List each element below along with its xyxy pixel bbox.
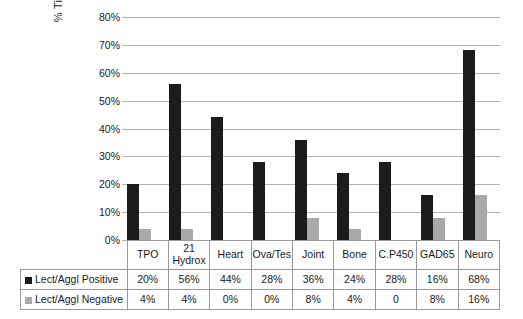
- bar-positive: [295, 140, 307, 240]
- table-value-cell: 4%: [127, 290, 168, 310]
- table-value-cell: 16%: [417, 270, 458, 290]
- bar-chart: % Tissue Antibodies 0%10%20%30%40%50%60%…: [0, 0, 523, 319]
- table-category-header: Bone: [334, 241, 375, 270]
- bar-group: [458, 17, 500, 240]
- bar-group: [290, 17, 332, 240]
- plot-area: [122, 17, 500, 240]
- table-corner-cell: [21, 241, 128, 270]
- table-header-row: TPO21HydroxHeartOva/TesJointBoneC.P450GA…: [21, 241, 500, 270]
- table-category-header: Joint: [293, 241, 334, 270]
- legend-item-positive: Lect/Aggl Positive: [21, 270, 128, 290]
- table-value-cell: 8%: [293, 290, 334, 310]
- y-tick-label: 10%: [90, 206, 120, 218]
- table-category-header: Heart: [210, 241, 251, 270]
- y-tick-label: 50%: [90, 95, 120, 107]
- table-row: Lect/Aggl Negative4%4%0%0%8%4%08%16%: [21, 290, 500, 310]
- table-row: Lect/Aggl Positive20%56%44%28%36%24%28%1…: [21, 270, 500, 290]
- table-value-cell: 0%: [251, 290, 292, 310]
- table-value-cell: 0%: [210, 290, 251, 310]
- y-tick-label: 30%: [90, 150, 120, 162]
- bar-group: [416, 17, 458, 240]
- bar-group: [122, 17, 164, 240]
- y-axis-title: % Tissue Antibodies: [52, 0, 68, 56]
- bar-group: [332, 17, 374, 240]
- bar-negative: [349, 229, 361, 240]
- table-category-header: TPO: [127, 241, 168, 270]
- table-value-cell: 36%: [293, 270, 334, 290]
- table-value-cell: 0: [375, 290, 416, 310]
- bar-negative: [181, 229, 193, 240]
- table-category-header: Neuro: [458, 241, 500, 270]
- y-tick-label: 60%: [90, 67, 120, 79]
- bar-positive: [421, 195, 433, 240]
- legend-swatch-icon: [25, 297, 32, 304]
- bar-positive: [253, 162, 265, 240]
- table-value-cell: 68%: [458, 270, 500, 290]
- table-value-cell: 56%: [168, 270, 209, 290]
- bar-positive: [127, 184, 139, 240]
- bar-positive: [463, 50, 475, 240]
- y-tick-label: 80%: [90, 11, 120, 23]
- bar-negative: [433, 218, 445, 240]
- table-value-cell: 4%: [334, 290, 375, 310]
- bar-group: [164, 17, 206, 240]
- table-category-header: Ova/Tes: [251, 241, 292, 270]
- legend-swatch-icon: [25, 277, 32, 284]
- table-value-cell: 24%: [334, 270, 375, 290]
- bar-negative: [139, 229, 151, 240]
- bar-positive: [169, 84, 181, 240]
- table-category-header: 21Hydrox: [168, 241, 209, 270]
- y-axis-tick-labels: 0%10%20%30%40%50%60%70%80%: [90, 0, 120, 258]
- bar-positive: [211, 117, 223, 240]
- bar-negative: [307, 218, 319, 240]
- bar-negative: [475, 195, 487, 240]
- legend-item-negative: Lect/Aggl Negative: [21, 290, 128, 310]
- bar-positive: [337, 173, 349, 240]
- data-table: TPO21HydroxHeartOva/TesJointBoneC.P450GA…: [20, 240, 500, 310]
- table-value-cell: 16%: [458, 290, 500, 310]
- table-value-cell: 44%: [210, 270, 251, 290]
- y-tick-label: 20%: [90, 178, 120, 190]
- legend-label: Lect/Aggl Positive: [35, 273, 118, 285]
- bar-positive: [379, 162, 391, 240]
- bar-group: [206, 17, 248, 240]
- table-value-cell: 4%: [168, 290, 209, 310]
- bar-group: [374, 17, 416, 240]
- y-tick-label: 70%: [90, 39, 120, 51]
- table-value-cell: 8%: [417, 290, 458, 310]
- table-category-header: C.P450: [375, 241, 416, 270]
- table-value-cell: 28%: [251, 270, 292, 290]
- table-value-cell: 20%: [127, 270, 168, 290]
- table-value-cell: 28%: [375, 270, 416, 290]
- bar-group: [248, 17, 290, 240]
- data-table-body: TPO21HydroxHeartOva/TesJointBoneC.P450GA…: [21, 241, 500, 310]
- y-tick-label: 40%: [90, 123, 120, 135]
- table-category-header: GAD65: [417, 241, 458, 270]
- legend-label: Lect/Aggl Negative: [35, 293, 123, 305]
